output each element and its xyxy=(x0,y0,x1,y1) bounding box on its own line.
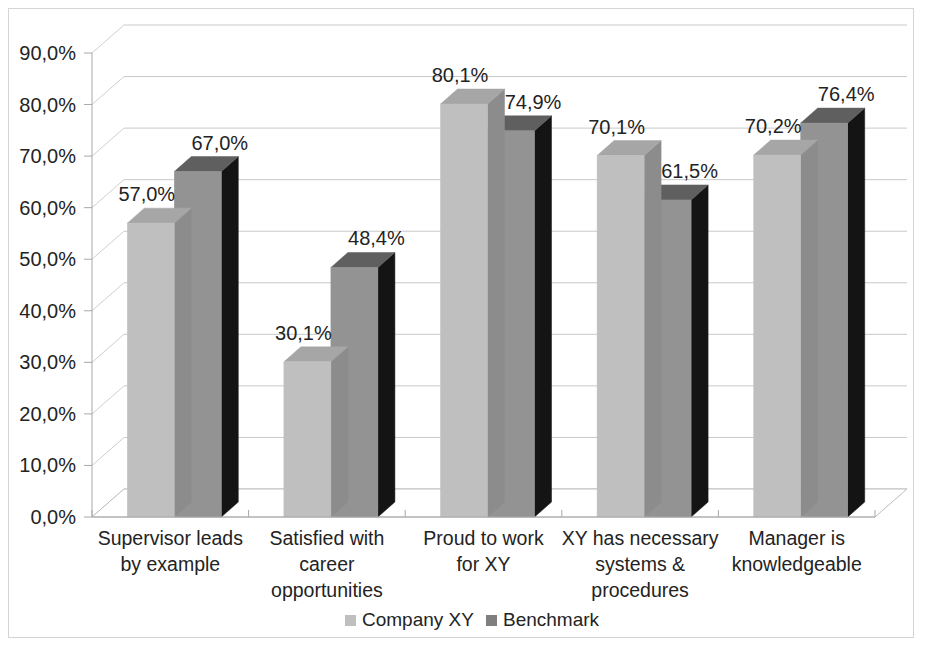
legend-swatch xyxy=(345,615,356,626)
svg-text:systems &: systems & xyxy=(595,553,685,575)
svg-text:knowledgeable: knowledgeable xyxy=(732,553,862,575)
svg-text:80,0%: 80,0% xyxy=(19,94,76,116)
svg-text:70,1%: 70,1% xyxy=(588,116,645,138)
svg-text:80,1%: 80,1% xyxy=(432,64,489,86)
svg-text:57,0%: 57,0% xyxy=(118,183,175,205)
svg-text:60,0%: 60,0% xyxy=(19,197,76,219)
y-axis: 0,0%10,0%20,0%30,0%40,0%50,0%60,0%70,0%8… xyxy=(19,42,92,528)
svg-text:48,4%: 48,4% xyxy=(348,227,405,249)
svg-text:70,2%: 70,2% xyxy=(745,115,802,137)
svg-text:Supervisor leads: Supervisor leads xyxy=(98,527,243,549)
svg-text:20,0%: 20,0% xyxy=(19,403,76,425)
svg-text:0,0%: 0,0% xyxy=(30,506,76,528)
svg-text:90,0%: 90,0% xyxy=(19,42,76,64)
svg-text:61,5%: 61,5% xyxy=(661,160,718,182)
svg-text:career: career xyxy=(299,553,355,575)
svg-text:30,0%: 30,0% xyxy=(19,351,76,373)
legend-label: Company XY xyxy=(362,609,474,630)
svg-text:70,0%: 70,0% xyxy=(19,145,76,167)
svg-text:Manager is: Manager is xyxy=(748,527,845,549)
chart-container: 0,0%10,0%20,0%30,0%40,0%50,0%60,0%70,0%8… xyxy=(0,0,929,648)
svg-text:procedures: procedures xyxy=(591,579,689,601)
svg-text:Proud to work: Proud to work xyxy=(423,527,544,549)
svg-text:by example: by example xyxy=(120,553,220,575)
svg-text:for XY: for XY xyxy=(456,553,510,575)
chart-legend: Company XYBenchmark xyxy=(345,609,600,630)
svg-text:50,0%: 50,0% xyxy=(19,248,76,270)
svg-text:74,9%: 74,9% xyxy=(505,91,562,113)
bar-chart-3d: 0,0%10,0%20,0%30,0%40,0%50,0%60,0%70,0%8… xyxy=(0,0,929,648)
svg-text:67,0%: 67,0% xyxy=(191,132,248,154)
category-labels-group: Supervisor leadsby exampleSatisfied with… xyxy=(92,510,875,601)
svg-text:XY has necessary: XY has necessary xyxy=(562,527,719,549)
svg-text:opportunities: opportunities xyxy=(271,579,383,601)
svg-text:76,4%: 76,4% xyxy=(818,83,875,105)
legend-swatch xyxy=(486,615,497,626)
svg-text:Satisfied with: Satisfied with xyxy=(269,527,384,549)
svg-text:40,0%: 40,0% xyxy=(19,300,76,322)
svg-text:30,1%: 30,1% xyxy=(275,322,332,344)
legend-label: Benchmark xyxy=(503,609,600,630)
svg-text:10,0%: 10,0% xyxy=(19,454,76,476)
